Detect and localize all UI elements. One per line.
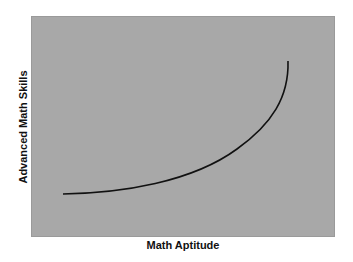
x-axis-label: Math Aptitude [31,239,335,251]
data-curve [32,17,336,238]
y-axis-label: Advanced Math Skills [17,70,29,183]
plot-area [31,16,335,237]
